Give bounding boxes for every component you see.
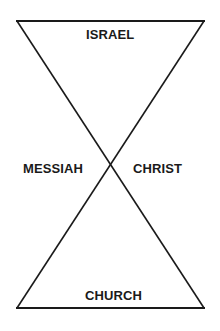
label-israel: ISRAEL xyxy=(86,28,134,41)
label-messiah: MESSIAH xyxy=(23,162,83,175)
label-church: CHURCH xyxy=(85,289,142,302)
label-christ: CHRIST xyxy=(133,162,182,175)
